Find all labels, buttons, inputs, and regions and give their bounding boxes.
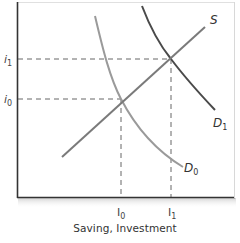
label-s: S — [210, 13, 218, 27]
x-axis-label: Saving, Investment — [0, 222, 240, 234]
frame-shadow — [18, 198, 236, 208]
y-tick-i1: i1 — [4, 53, 12, 68]
x-tick-I0: I0 — [117, 206, 125, 221]
x-tick-I1: I1 — [168, 206, 176, 221]
saving-investment-chart: S D1 D0 i1 i0 I0 I1 — [0, 0, 240, 243]
y-tick-i0: i0 — [4, 93, 12, 108]
